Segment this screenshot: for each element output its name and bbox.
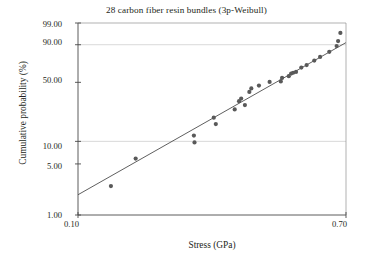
plot-area (0, 0, 373, 264)
data-point (268, 80, 272, 84)
data-point (294, 70, 298, 74)
data-point (327, 50, 331, 54)
data-point (243, 103, 247, 107)
data-point (335, 44, 339, 48)
tick-marks (75, 23, 346, 218)
data-point (233, 107, 237, 111)
data-point (312, 59, 316, 63)
data-point (214, 122, 218, 126)
data-point (192, 133, 196, 137)
gridlines (78, 45, 346, 142)
data-point (109, 184, 113, 188)
data-point (134, 156, 138, 160)
data-point (338, 31, 342, 35)
data-point (299, 66, 303, 70)
data-point (192, 140, 196, 144)
weibull-probability-chart: 28 carbon fiber resin bundles (3p-Weibul… (0, 0, 373, 264)
data-point (249, 86, 253, 90)
data-point (257, 83, 261, 87)
data-point (239, 97, 243, 101)
data-point (318, 55, 322, 59)
data-point (305, 63, 309, 67)
data-points (109, 31, 343, 188)
data-point (280, 76, 284, 80)
data-point (336, 39, 340, 43)
data-point (212, 116, 216, 120)
